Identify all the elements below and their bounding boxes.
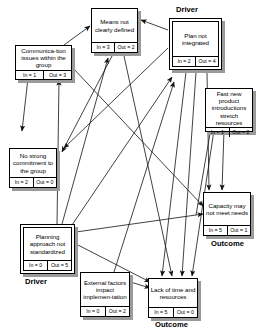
node-frame: Plan not integrated In = 2 Out = 4 [169, 18, 222, 70]
node-label: Fast new product introductions stretch r… [206, 89, 252, 127]
edge-comm-nostrong [22, 78, 28, 131]
role-label-driver-planning: Driver [25, 277, 47, 286]
node-no-strong-commitment[interactable]: No strong commitment to the group In = 2… [9, 148, 57, 188]
node-degrees: In = 2 Out = 4 [173, 56, 218, 66]
node-in-degree: In = 2 [173, 57, 196, 66]
node-frame: Fast new product introductions stretch r… [205, 88, 253, 132]
node-out-degree: Out = 2 [230, 128, 253, 137]
role-label-driver-plan: Driver [176, 5, 198, 14]
node-frame: Capacity may not meet needs In = 5 Out =… [203, 192, 251, 236]
node-out-degree: Out = 2 [106, 307, 130, 316]
node-inner-frame: Planning approach not standardized In = … [23, 227, 72, 271]
node-frame: No strong commitment to the group In = 2… [9, 148, 57, 188]
node-in-degree: In = 2 [10, 178, 34, 187]
node-degrees: In = 1 Out = 3 [16, 70, 71, 80]
node-fast-new-product-introductions[interactable]: Fast new product introductions stretch r… [205, 88, 253, 132]
node-degrees: In = 0 Out = 2 [81, 306, 129, 316]
edge-planning-plan [72, 77, 172, 225]
node-out-degree: Out = 5 [48, 261, 71, 270]
node-degrees: In = 3 Out = 2 [92, 42, 137, 52]
node-plan-not-integrated[interactable]: Plan not integrated In = 2 Out = 4 [169, 18, 222, 70]
node-label: Communica-tion issues within the group [16, 46, 71, 70]
edge-plan-lack-a [162, 72, 186, 276]
node-in-degree: In = 5 [149, 308, 174, 317]
node-degrees: In = 5 Out = 1 [204, 225, 250, 235]
node-frame: Lack of time and resources In = 5 Out = … [148, 278, 198, 318]
node-frame: External factors impact implemen-tation … [80, 272, 130, 317]
node-degrees: In = 0 Out = 5 [24, 260, 71, 270]
node-out-degree: Out = 4 [196, 57, 218, 66]
node-out-degree: Out = 0 [34, 178, 57, 187]
node-out-degree: Out = 2 [115, 43, 137, 52]
node-label: Means not clearly defined [92, 9, 137, 42]
node-frame: Planning approach not standardized In = … [20, 224, 75, 274]
edge-cross-nostrong [64, 48, 168, 148]
role-label-outcome-lack: Outcome [155, 320, 188, 329]
node-label: External factors impact implemen-tation [81, 273, 129, 306]
node-frame: Communica-tion issues within the group I… [15, 45, 72, 80]
node-out-degree: Out = 3 [44, 71, 71, 80]
node-in-degree: In = 1 [16, 71, 44, 80]
edge-fast-capacity [222, 130, 224, 190]
role-label-outcome-capacity: Outcome [211, 239, 244, 248]
node-degrees: In = 1 Out = 2 [206, 127, 252, 137]
diagram-canvas: Means not clearly defined In = 3 Out = 2… [0, 0, 261, 334]
edge-planning-capacity [76, 214, 203, 232]
node-degrees: In = 2 Out = 0 [10, 177, 56, 187]
node-out-degree: Out = 1 [228, 226, 251, 235]
node-label: Capacity may not meet needs [204, 193, 250, 225]
node-frame: Means not clearly defined In = 3 Out = 2 [91, 8, 138, 53]
node-out-degree: Out = 0 [174, 308, 198, 317]
node-communication-issues[interactable]: Communica-tion issues within the group I… [15, 45, 72, 80]
node-in-degree: In = 0 [24, 261, 48, 270]
edge-plan-means [141, 20, 168, 30]
node-means-not-clearly-defined[interactable]: Means not clearly defined In = 3 Out = 2 [91, 8, 138, 53]
node-label: Plan not integrated [173, 22, 218, 56]
node-capacity-may-not-meet-needs[interactable]: Capacity may not meet needs In = 5 Out =… [203, 192, 251, 236]
edge-comm-capacity [72, 67, 203, 206]
node-label: No strong commitment to the group [10, 149, 56, 177]
node-degrees: In = 5 Out = 0 [149, 307, 197, 317]
node-lack-of-time-and-resources[interactable]: Lack of time and resources In = 5 Out = … [148, 278, 198, 318]
node-label: Planning approach not standardized [24, 228, 71, 260]
node-in-degree: In = 1 [206, 128, 230, 137]
node-inner-frame: Plan not integrated In = 2 Out = 4 [172, 21, 219, 67]
node-in-degree: In = 0 [81, 307, 106, 316]
node-planning-approach-not-standardized[interactable]: Planning approach not standardized In = … [20, 224, 75, 274]
node-label: Lack of time and resources [149, 279, 197, 307]
node-in-degree: In = 3 [92, 43, 115, 52]
node-in-degree: In = 5 [204, 226, 228, 235]
node-external-factors-impact-implementation[interactable]: External factors impact implemen-tation … [80, 272, 130, 317]
edge-plan-lack-b [182, 72, 196, 276]
edge-comm-means [64, 26, 90, 45]
